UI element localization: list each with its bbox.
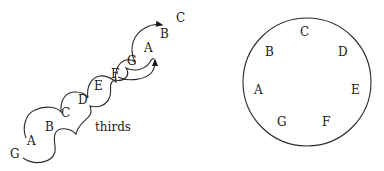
circle-note-b: B — [265, 45, 274, 59]
spiral-note-c-high: C — [176, 11, 185, 25]
thirds-caption: thirds — [95, 120, 131, 134]
circle-note-g: G — [277, 115, 287, 129]
circle-note-f: F — [322, 115, 330, 129]
circle-note-d: D — [338, 45, 348, 59]
spiral-note-e: E — [94, 79, 103, 93]
spiral-note-g-low: G — [10, 147, 20, 161]
circle-note-c: C — [300, 25, 309, 39]
spiral-note-a-low: A — [26, 134, 36, 148]
spiral-note-b-low: B — [45, 120, 54, 134]
pitch-diagram: G A B C D E F G A B C thirds C B D A E G… — [0, 0, 384, 171]
circle-note-e: E — [351, 83, 360, 97]
spiral-note-c-low: C — [61, 106, 70, 120]
spiral-note-f: F — [111, 67, 119, 81]
spiral-note-a-high: A — [143, 41, 153, 55]
spiral-note-labels: G A B C D E F G A B C thirds — [10, 11, 185, 161]
spiral-note-b-high: B — [160, 27, 169, 41]
circle-note-a: A — [253, 83, 263, 97]
spiral-note-d: D — [78, 93, 88, 107]
thirds-spiral-path — [23, 25, 162, 163]
circle-note-labels: C B D A E G F — [253, 25, 360, 129]
spiral-note-g-high: G — [127, 54, 137, 68]
